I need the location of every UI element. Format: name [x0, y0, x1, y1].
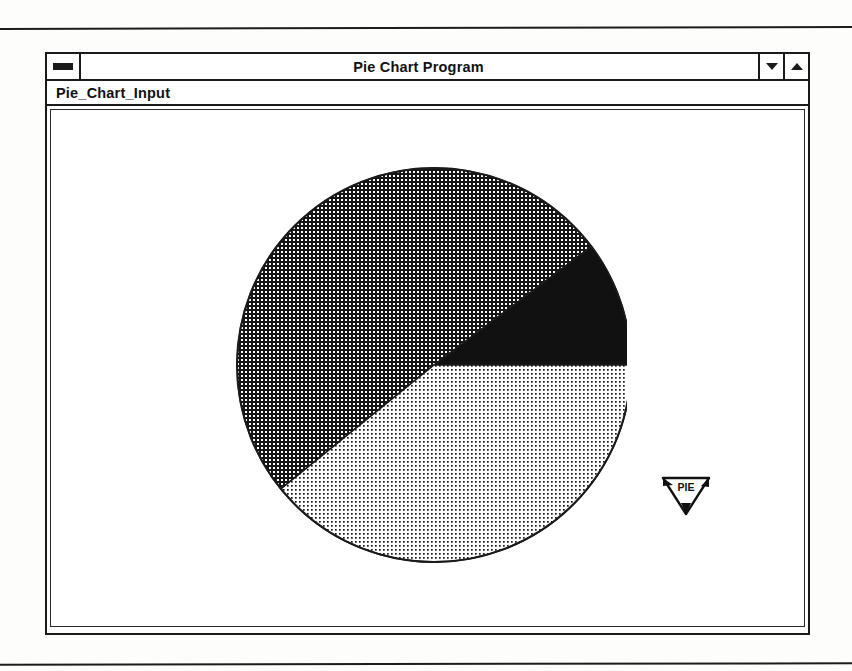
menu-item-pie-chart-input[interactable]: Pie_Chart_Input: [47, 85, 178, 101]
chart-canvas[interactable]: PIE: [50, 109, 805, 627]
pie-wedge-cursor[interactable]: PIE: [660, 472, 712, 516]
menu-bar: Pie_Chart_Input: [47, 81, 808, 106]
minimize-button[interactable]: [758, 54, 783, 79]
cursor-label: PIE: [678, 481, 695, 493]
page-rule-top: [0, 26, 852, 30]
window-menu-button[interactable]: [47, 54, 81, 79]
window-menu-icon: [53, 63, 73, 70]
triangle-down-icon: [766, 63, 778, 70]
title-bar: Pie Chart Program: [47, 54, 808, 81]
pie-chart-program-window: Pie Chart Program Pie_Chart_Input: [45, 52, 810, 635]
maximize-button[interactable]: [783, 54, 808, 79]
window-title: Pie Chart Program: [81, 54, 758, 79]
pie-chart: [227, 145, 627, 585]
page-rule-bottom: [0, 662, 852, 665]
pie-slices: [237, 168, 627, 562]
triangle-up-icon: [791, 63, 803, 70]
